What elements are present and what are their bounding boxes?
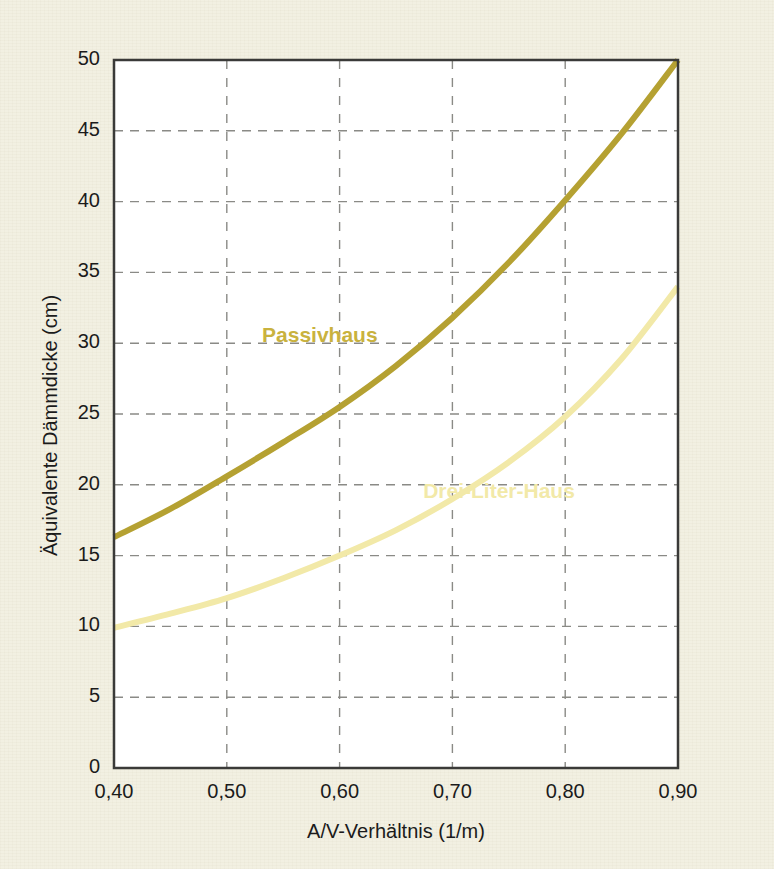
x-tick-label: 0,60 [295, 780, 385, 803]
series-label-passivhaus: Passivhaus [262, 323, 378, 347]
plot-canvas [0, 0, 774, 869]
y-tick-label: 0 [40, 755, 100, 778]
chart-figure: 05101520253035404550 0,400,500,600,700,8… [0, 0, 774, 869]
y-axis-title: Äquivalente Dämmdicke (cm) [39, 256, 62, 596]
x-tick-label: 0,80 [520, 780, 610, 803]
y-tick-label: 5 [40, 684, 100, 707]
y-tick-label: 45 [40, 118, 100, 141]
x-tick-label: 0,50 [182, 780, 272, 803]
x-tick-label: 0,90 [633, 780, 723, 803]
x-tick-label: 0,70 [407, 780, 497, 803]
series-label-drei-liter-haus: Drei-Liter-Haus [423, 479, 575, 503]
y-tick-label: 50 [40, 47, 100, 70]
x-axis-title: A/V-Verhältnis (1/m) [114, 820, 678, 843]
x-tick-label: 0,40 [69, 780, 159, 803]
y-tick-label: 40 [40, 189, 100, 212]
y-tick-label: 10 [40, 613, 100, 636]
